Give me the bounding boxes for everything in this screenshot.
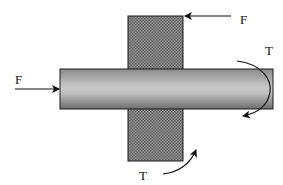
- force-label-top: F: [240, 12, 247, 27]
- diagram-canvas: F F T T: [0, 0, 283, 185]
- shaft: [60, 69, 273, 109]
- force-label-left: F: [15, 72, 22, 87]
- torque-label-right: T: [265, 43, 273, 58]
- torque-label-bottom: T: [139, 168, 147, 183]
